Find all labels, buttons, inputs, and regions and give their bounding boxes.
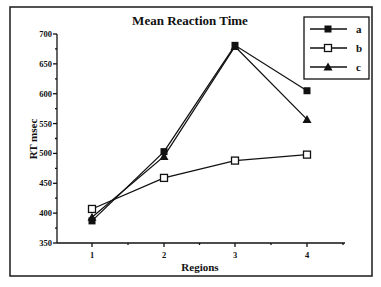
y-tick-label: 350	[39, 238, 52, 248]
x-axis-label: Regions	[181, 261, 219, 273]
y-axis-label: RT msec	[27, 119, 39, 160]
x-tick-label: 2	[162, 250, 166, 260]
y-tick-label: 500	[39, 148, 52, 158]
legend-label: b	[356, 42, 362, 54]
legend: abc	[304, 17, 369, 79]
open-square-marker	[232, 157, 239, 164]
x-tick-label: 1	[90, 250, 94, 260]
open-square-marker	[89, 205, 96, 212]
open-square-marker	[325, 45, 332, 52]
y-tick-label: 450	[39, 178, 52, 188]
chart-title: Mean Reaction Time	[132, 13, 248, 28]
y-tick-label: 650	[39, 59, 52, 69]
y-tick-label: 400	[39, 208, 52, 218]
filled-square-marker	[304, 87, 311, 94]
legend-label: a	[356, 23, 362, 35]
y-tick-label: 600	[39, 89, 52, 99]
legend-label: c	[356, 61, 361, 73]
open-square-marker	[304, 151, 311, 158]
open-square-marker	[161, 174, 168, 181]
x-tick-label: 3	[233, 250, 237, 260]
y-tick-label: 550	[39, 119, 52, 129]
y-tick-label: 700	[39, 29, 52, 39]
chart: Mean Reaction Time RT msec Regions 35040…	[0, 0, 381, 287]
filled-square-marker	[325, 26, 332, 33]
